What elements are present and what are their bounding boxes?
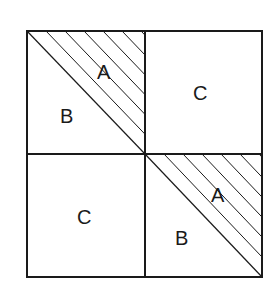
label-top-right-c: C: [193, 82, 207, 104]
hatch-region-bottom-right: [164, 154, 275, 277]
label-bottom-left-c: C: [77, 206, 91, 228]
diagonal-top-left: [27, 31, 145, 154]
hatch-region-top-left: [46, 31, 259, 154]
label-bottom-right-b: B: [175, 227, 188, 249]
quadrant-diagram: A B C C A B: [0, 0, 275, 296]
label-top-left-b: B: [60, 105, 73, 127]
diagonal-bottom-right: [145, 154, 262, 277]
label-bottom-right-a: A: [211, 184, 225, 206]
label-top-left-a: A: [97, 61, 111, 83]
